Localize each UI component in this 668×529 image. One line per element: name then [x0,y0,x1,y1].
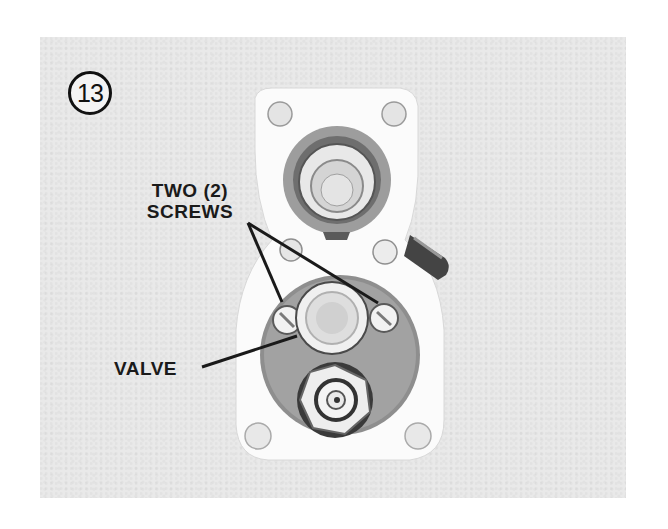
figure-number-badge: 13 [68,71,112,115]
screws-label-line1: TWO (2) [120,180,260,201]
valve-callout: VALVE [114,358,177,379]
screws-label-line2: SCREWS [120,201,260,222]
screws-callout: TWO (2) SCREWS [120,180,260,222]
